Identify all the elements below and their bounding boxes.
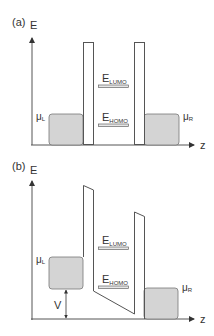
panel-b-left-reservoir	[49, 257, 83, 289]
panel-a-mu-left-label: μL	[36, 111, 46, 122]
panel-a-homo-level	[99, 124, 129, 127]
panel-a-y-axis-label: E	[30, 19, 37, 31]
panel-b-right-reservoir	[144, 288, 178, 319]
panel-a-right-barrier	[135, 43, 145, 145]
panel-a-right-reservoir	[144, 114, 179, 145]
panel-a-left-reservoir	[49, 114, 83, 145]
panel-a-label: (a)	[12, 16, 25, 28]
panel-b-lumo-level	[99, 247, 129, 250]
panel-a-lumo-label: ELUMO	[102, 72, 127, 85]
panel-a-homo-label: EHOMO	[102, 111, 128, 124]
panel-b: (b) E z ELUMO EHOMO μL μR V	[12, 160, 206, 325]
panel-b-y-axis-label: E	[30, 164, 37, 176]
panel-b-tilted-barriers	[84, 186, 145, 320]
panel-b-x-axis-label: z	[200, 313, 206, 325]
energy-diagram: (a) E z ELUMO EHOMO μL μR (b) E	[0, 0, 214, 336]
panel-a: (a) E z ELUMO EHOMO μL μR	[12, 16, 206, 151]
panel-b-bias-label: V	[54, 299, 62, 311]
panel-b-mu-left-label: μL	[36, 254, 46, 265]
panel-a-lumo-level	[99, 85, 129, 88]
panel-b-lumo-label: ELUMO	[102, 234, 127, 247]
panel-b-homo-label: EHOMO	[102, 273, 128, 286]
panel-a-mu-right-label: μR	[183, 111, 194, 122]
panel-b-homo-level	[99, 286, 129, 289]
panel-b-mu-right-label: μR	[182, 282, 193, 293]
panel-b-label: (b)	[12, 160, 25, 172]
panel-a-x-axis-label: z	[200, 139, 206, 151]
panel-a-left-barrier	[84, 43, 94, 145]
